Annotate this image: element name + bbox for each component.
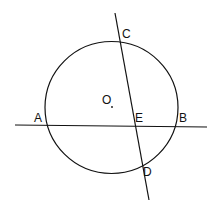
- label-e: E: [135, 111, 143, 125]
- label-c: C: [122, 27, 131, 41]
- label-b: B: [179, 111, 187, 125]
- label-a: A: [34, 111, 42, 125]
- chord-ab-line: [15, 125, 207, 127]
- geometry-diagram: A B C D E O: [0, 0, 214, 211]
- center-point-o: [111, 106, 113, 108]
- label-d: D: [143, 165, 152, 179]
- label-o: O: [102, 93, 111, 107]
